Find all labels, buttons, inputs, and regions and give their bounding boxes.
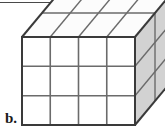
part-label: b. <box>5 111 17 126</box>
front-face <box>22 37 135 125</box>
figure-container: b. <box>0 0 165 137</box>
cube-stack-diagram <box>0 0 165 137</box>
